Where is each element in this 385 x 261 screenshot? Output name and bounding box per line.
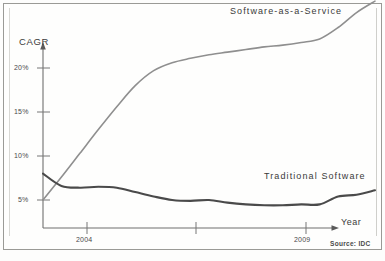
y-tick-label-5: 5% (18, 196, 29, 203)
y-tick-label-20: 20% (14, 64, 29, 71)
series-label-software-as-a-service: Software-as-a-Service (230, 6, 342, 16)
x-tick-label-2009: 2009 (294, 236, 310, 243)
x-tick-label-2004: 2004 (76, 236, 92, 243)
series-label-traditional-software: Traditional Software (264, 171, 366, 181)
source-attribution: Source: IDC (330, 240, 371, 247)
chart-screenshot: CAGR Year 20% 15% 10% 5% 2004 2009 Softw… (0, 0, 385, 261)
y-axis-title: CAGR (19, 36, 49, 47)
x-axis-title: Year (341, 217, 361, 227)
chart-plot-area (0, 0, 385, 261)
y-tick-label-15: 15% (14, 108, 29, 115)
y-tick-label-10: 10% (14, 152, 29, 159)
